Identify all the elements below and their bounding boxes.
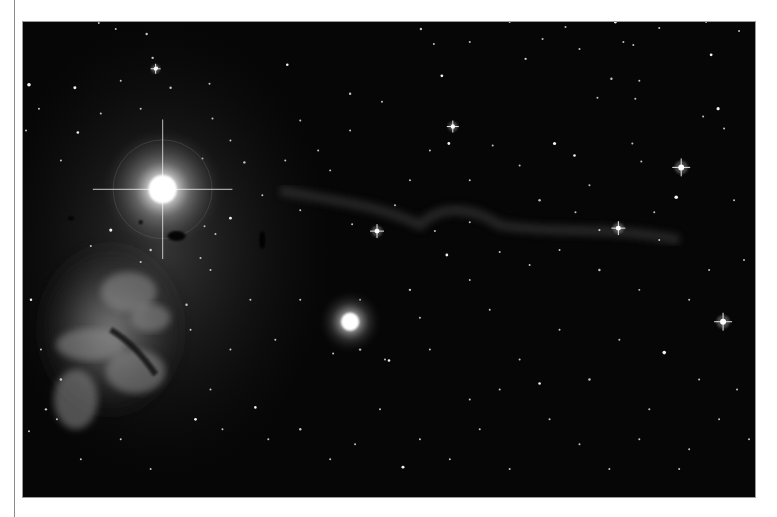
page: [0, 0, 777, 517]
astronomy-photo: [22, 21, 756, 498]
star-field-image: [23, 22, 755, 497]
reflection-nebula: [318, 290, 382, 354]
margin-rule: [14, 0, 15, 517]
